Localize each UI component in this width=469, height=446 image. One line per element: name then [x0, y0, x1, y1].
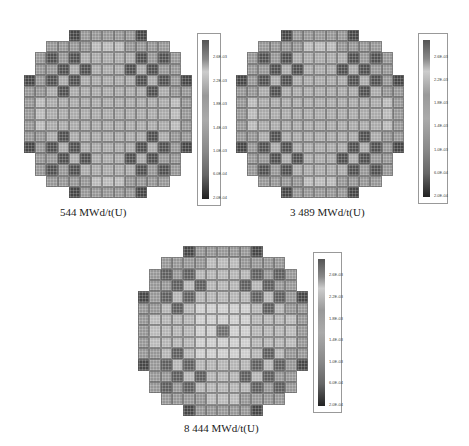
- core-map-2: [236, 30, 404, 198]
- fuel-assembly: [136, 41, 147, 52]
- empty-position: [247, 187, 258, 198]
- fuel-assembly: [314, 187, 325, 198]
- fuel-assembly: [251, 405, 262, 416]
- fuel-assembly: [69, 142, 80, 153]
- fuel-assembly: [91, 120, 102, 131]
- fuel-assembly: [172, 359, 183, 370]
- fuel-assembly: [114, 142, 125, 153]
- fuel-assembly: [251, 348, 262, 359]
- empty-position: [35, 187, 46, 198]
- fuel-assembly: [370, 131, 381, 142]
- fuel-assembly: [393, 97, 404, 108]
- fuel-assembly: [303, 75, 314, 86]
- empty-position: [58, 187, 69, 198]
- fuel-assembly: [69, 86, 80, 97]
- fuel-assembly: [161, 359, 172, 370]
- fuel-assembly: [270, 64, 281, 75]
- fuel-assembly: [80, 120, 91, 131]
- empty-position: [285, 257, 296, 268]
- fuel-assembly: [303, 153, 314, 164]
- fuel-assembly: [359, 131, 370, 142]
- fuel-assembly: [147, 108, 158, 119]
- fuel-assembly: [359, 120, 370, 131]
- fuel-assembly: [337, 120, 348, 131]
- fuel-assembly: [236, 131, 247, 142]
- fuel-assembly: [348, 142, 359, 153]
- fuel-assembly: [274, 359, 285, 370]
- fuel-assembly: [393, 120, 404, 131]
- empty-position: [149, 257, 160, 268]
- fuel-assembly: [270, 176, 281, 187]
- fuel-assembly: [91, 131, 102, 142]
- fuel-assembly: [274, 314, 285, 325]
- fuel-assembly: [46, 64, 57, 75]
- fuel-assembly: [337, 30, 348, 41]
- fuel-assembly: [46, 176, 57, 187]
- fuel-assembly: [263, 359, 274, 370]
- fuel-assembly: [195, 359, 206, 370]
- fuel-assembly: [172, 269, 183, 280]
- fuel-assembly: [370, 52, 381, 63]
- fuel-assembly: [35, 97, 46, 108]
- fuel-assembly: [285, 348, 296, 359]
- empty-position: [170, 187, 181, 198]
- fuel-assembly: [348, 41, 359, 52]
- fuel-assembly: [251, 337, 262, 348]
- fuel-assembly: [229, 359, 240, 370]
- empty-position: [35, 41, 46, 52]
- fuel-assembly: [247, 131, 258, 142]
- empty-position: [297, 280, 308, 291]
- fuel-assembly: [114, 52, 125, 63]
- fuel-assembly: [102, 176, 113, 187]
- fuel-assembly: [91, 97, 102, 108]
- fuel-assembly: [229, 291, 240, 302]
- fuel-assembly: [158, 52, 169, 63]
- fuel-assembly: [240, 257, 251, 268]
- fuel-assembly: [337, 64, 348, 75]
- fuel-assembly: [183, 371, 194, 382]
- fuel-assembly: [80, 30, 91, 41]
- fuel-assembly: [58, 52, 69, 63]
- fuel-assembly: [370, 75, 381, 86]
- fuel-assembly: [263, 325, 274, 336]
- fuel-assembly: [247, 75, 258, 86]
- fuel-assembly: [158, 176, 169, 187]
- empty-position: [181, 64, 192, 75]
- fuel-assembly: [125, 142, 136, 153]
- fuel-assembly: [247, 97, 258, 108]
- fuel-assembly: [161, 280, 172, 291]
- fuel-assembly: [274, 337, 285, 348]
- empty-position: [170, 176, 181, 187]
- fuel-assembly: [314, 108, 325, 119]
- fuel-assembly: [158, 131, 169, 142]
- empty-position: [297, 393, 308, 404]
- colorbar-tick-label: 1.0E-03: [329, 359, 343, 364]
- empty-position: [147, 187, 158, 198]
- fuel-assembly: [35, 164, 46, 175]
- fuel-assembly: [297, 314, 308, 325]
- fuel-assembly: [69, 97, 80, 108]
- fuel-assembly: [91, 41, 102, 52]
- fuel-assembly: [69, 153, 80, 164]
- empty-position: [382, 41, 393, 52]
- fuel-assembly: [247, 164, 258, 175]
- fuel-assembly: [136, 120, 147, 131]
- fuel-assembly: [229, 303, 240, 314]
- fuel-assembly: [382, 108, 393, 119]
- empty-position: [297, 257, 308, 268]
- fuel-assembly: [206, 348, 217, 359]
- fuel-assembly: [158, 75, 169, 86]
- fuel-assembly: [217, 314, 228, 325]
- empty-position: [181, 30, 192, 41]
- fuel-assembly: [326, 97, 337, 108]
- fuel-assembly: [263, 348, 274, 359]
- fuel-assembly: [24, 131, 35, 142]
- fuel-assembly: [149, 291, 160, 302]
- fuel-assembly: [114, 176, 125, 187]
- empty-position: [263, 405, 274, 416]
- fuel-assembly: [258, 176, 269, 187]
- fuel-assembly: [247, 120, 258, 131]
- fuel-assembly: [281, 86, 292, 97]
- fuel-assembly: [102, 120, 113, 131]
- empty-position: [382, 30, 393, 41]
